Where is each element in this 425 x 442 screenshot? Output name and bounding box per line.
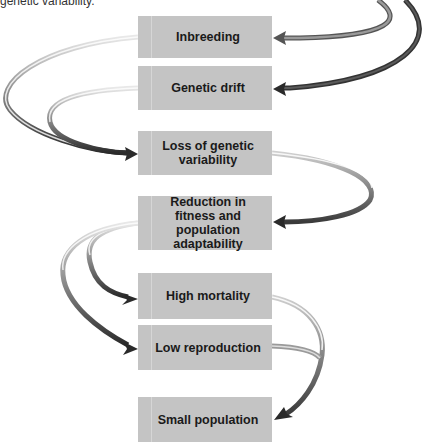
arrow-to-inbreeding bbox=[273, 0, 390, 45]
arrowhead-icon bbox=[123, 342, 138, 355]
box-reduction-in-fitness: Reduction in fitness and population adap… bbox=[138, 196, 272, 250]
arrow-to-genetic-drift bbox=[273, 0, 419, 96]
box-low-reproduction: Low reproduction bbox=[138, 325, 272, 370]
arrow-reduction-to-reproduction bbox=[63, 223, 138, 355]
box-loss-of-genetic-variability: Loss of genetic variability bbox=[138, 131, 272, 175]
arrow-drift-to-loss bbox=[50, 88, 138, 161]
box-small-population: Small population bbox=[138, 397, 272, 442]
box-high-mortality: High mortality bbox=[138, 273, 272, 319]
arrow-reduction-to-mortality bbox=[89, 223, 138, 305]
arrow-loss-to-reduction bbox=[272, 153, 372, 229]
box-genetic-drift: Genetic drift bbox=[138, 66, 272, 110]
box-inbreeding: Inbreeding bbox=[138, 16, 272, 58]
